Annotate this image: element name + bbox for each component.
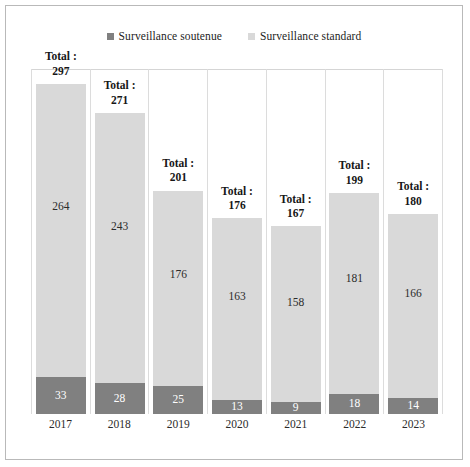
total-value: 201 — [149, 170, 207, 184]
bar-column-2019[interactable]: Total :20117625 — [149, 69, 208, 414]
total-value: 167 — [267, 206, 325, 220]
total-prefix: Total : — [326, 158, 384, 172]
bar-value-soutenue-2017: 33 — [55, 390, 67, 402]
total-prefix: Total : — [32, 49, 90, 63]
chart-frame: Surveillance soutenue Surveillance stand… — [5, 5, 463, 460]
bar-group-container: Total :29726433Total :27124328Total :201… — [31, 69, 443, 414]
bar-value-standard-2022: 181 — [346, 273, 363, 285]
bar-total-label-2023: Total :180 — [384, 179, 442, 208]
bar-total-label-2021: Total :167 — [267, 192, 325, 221]
x-tick-2019: 2019 — [149, 418, 208, 430]
bar-column-2023[interactable]: Total :18016614 — [384, 69, 443, 414]
bar-total-label-2019: Total :201 — [149, 156, 207, 185]
stacked-bar-2019[interactable]: 17625 — [153, 191, 203, 414]
bar-value-soutenue-2020: 13 — [231, 401, 243, 413]
bar-value-soutenue-2019: 25 — [173, 394, 185, 406]
bar-value-standard-2018: 243 — [111, 221, 128, 233]
legend-label-soutenue: Surveillance soutenue — [119, 30, 222, 42]
total-value: 297 — [32, 64, 90, 78]
stacked-bar-2020[interactable]: 16313 — [212, 218, 262, 414]
x-tick-2018: 2018 — [90, 418, 149, 430]
stacked-bar-2022[interactable]: 18118 — [329, 193, 379, 414]
total-prefix: Total : — [208, 184, 266, 198]
bar-value-soutenue-2018: 28 — [114, 393, 126, 405]
total-value: 271 — [91, 93, 149, 107]
bar-value-standard-2017: 264 — [52, 201, 69, 213]
bar-segment-soutenue-2017[interactable]: 33 — [36, 377, 86, 414]
bar-column-2021[interactable]: Total :1671589 — [267, 69, 326, 414]
bar-segment-soutenue-2023[interactable]: 14 — [388, 398, 438, 414]
bar-total-label-2020: Total :176 — [208, 184, 266, 213]
bar-value-standard-2023: 166 — [405, 288, 422, 300]
legend-item-surveillance-soutenue[interactable]: Surveillance soutenue — [107, 30, 222, 42]
stacked-bar-2018[interactable]: 24328 — [95, 113, 145, 414]
total-value: 199 — [326, 173, 384, 187]
bar-segment-soutenue-2022[interactable]: 18 — [329, 394, 379, 414]
total-prefix: Total : — [267, 192, 325, 206]
total-value: 176 — [208, 198, 266, 212]
bar-column-2020[interactable]: Total :17616313 — [208, 69, 267, 414]
total-value: 180 — [384, 194, 442, 208]
bar-segment-standard-2017[interactable]: 264 — [36, 84, 86, 377]
bar-total-label-2017: Total :297 — [32, 49, 90, 78]
legend-swatch-standard — [248, 33, 255, 40]
legend-swatch-soutenue — [107, 33, 114, 40]
legend-label-standard: Surveillance standard — [260, 30, 361, 42]
bar-segment-soutenue-2018[interactable]: 28 — [95, 383, 145, 414]
bar-segment-standard-2021[interactable]: 158 — [271, 226, 321, 402]
x-tick-2021: 2021 — [266, 418, 325, 430]
plot-area: Total :29726433Total :27124328Total :201… — [31, 69, 443, 414]
bar-segment-soutenue-2020[interactable]: 13 — [212, 400, 262, 414]
bar-segment-standard-2023[interactable]: 166 — [388, 214, 438, 398]
bar-value-standard-2021: 158 — [287, 297, 304, 309]
bar-segment-standard-2018[interactable]: 243 — [95, 113, 145, 383]
stacked-bar-2023[interactable]: 16614 — [388, 214, 438, 414]
bar-column-2022[interactable]: Total :19918118 — [326, 69, 385, 414]
chart-legend: Surveillance soutenue Surveillance stand… — [6, 30, 462, 42]
x-tick-2023: 2023 — [384, 418, 443, 430]
total-prefix: Total : — [91, 78, 149, 92]
bar-column-2018[interactable]: Total :27124328 — [91, 69, 150, 414]
x-axis-tick-labels: 2017201820192020202120222023 — [31, 418, 443, 430]
bar-value-soutenue-2022: 18 — [349, 398, 361, 410]
bar-segment-standard-2019[interactable]: 176 — [153, 191, 203, 387]
bar-value-standard-2019: 176 — [170, 269, 187, 281]
bar-column-2017[interactable]: Total :29726433 — [31, 69, 91, 414]
x-tick-2020: 2020 — [208, 418, 267, 430]
bar-segment-standard-2022[interactable]: 181 — [329, 193, 379, 394]
total-prefix: Total : — [149, 156, 207, 170]
bar-total-label-2018: Total :271 — [91, 78, 149, 107]
bar-value-standard-2020: 163 — [228, 291, 245, 303]
bar-segment-soutenue-2021[interactable]: 9 — [271, 402, 321, 414]
bar-segment-standard-2020[interactable]: 163 — [212, 218, 262, 399]
x-tick-2017: 2017 — [31, 418, 90, 430]
legend-item-surveillance-standard[interactable]: Surveillance standard — [248, 30, 361, 42]
bar-value-soutenue-2023: 14 — [407, 400, 419, 412]
bar-total-label-2022: Total :199 — [326, 158, 384, 187]
stacked-bar-2021[interactable]: 1589 — [271, 226, 321, 414]
bar-value-soutenue-2021: 9 — [293, 402, 299, 414]
x-tick-2022: 2022 — [325, 418, 384, 430]
total-prefix: Total : — [384, 179, 442, 193]
bar-segment-soutenue-2019[interactable]: 25 — [153, 386, 203, 414]
stacked-bar-2017[interactable]: 26433 — [36, 84, 86, 414]
